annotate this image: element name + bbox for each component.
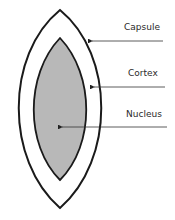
capsule-label: Capsule (124, 22, 160, 32)
cortex-label: Cortex (128, 68, 158, 78)
nucleus-label: Nucleus (126, 109, 162, 119)
lens-diagram: Capsule Cortex Nucleus (0, 0, 175, 220)
